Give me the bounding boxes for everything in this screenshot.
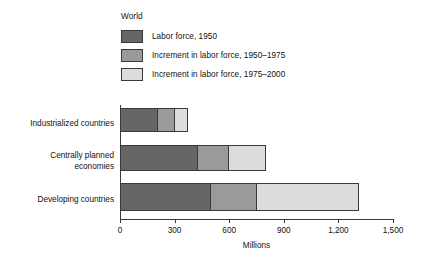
x-axis-tick [229,219,230,223]
x-axis-tick-label: 300 [168,226,182,236]
x-axis-tick [393,219,394,223]
bar-segment-centrally-planned-series3 [228,145,266,171]
legend-swatch-icon-series3 [121,68,143,81]
bar-segment-developing-series3 [256,183,360,211]
x-axis-tick [338,219,339,223]
x-axis-title: Millions [120,241,393,251]
bar-segment-centrally-planned-series1 [120,145,198,171]
legend-item-increment-1975-2000: Increment in labor force, 1975–2000 [121,65,411,84]
x-axis-tick-label: 900 [277,226,291,236]
bar-segment-industrialized-series3 [174,108,189,132]
legend-item-label: Increment in labor force, 1975–2000 [152,70,285,80]
x-axis-tick [175,219,176,223]
bar-segment-developing-series1 [120,183,211,211]
bar-centrally-planned [120,145,266,171]
legend-title: World [121,12,411,22]
legend-item-label: Labor force, 1950 [152,32,217,42]
bar-segment-industrialized-series1 [120,108,158,132]
y-axis-label-industrialized: Industrialized countries [2,118,114,129]
bar-segment-centrally-planned-series2 [197,145,229,171]
bar-developing [120,183,359,211]
bar-segment-developing-series2 [210,183,257,211]
x-axis-line [120,219,393,220]
bar-chart: World Labor force, 1950 Increment in lab… [0,0,429,268]
x-axis-tick-label: 0 [118,226,123,236]
y-axis-label-centrally-planned: Centrally planned economies [2,150,114,172]
legend-swatch-icon-series2 [121,49,143,62]
x-axis-tick-label: 600 [222,226,236,236]
x-axis-tick-label: 1,500 [383,226,404,236]
bar-segment-industrialized-series2 [157,108,174,132]
legend-item-labor-force-1950: Labor force, 1950 [121,27,411,46]
x-axis-tick [284,219,285,223]
legend-item-increment-1950-1975: Increment in labor force, 1950–1975 [121,46,411,65]
x-axis-tick [120,219,121,223]
plot-area: 03006009001,2001,500 Millions [120,105,393,219]
legend-swatch-icon-series1 [121,30,143,43]
legend-item-label: Increment in labor force, 1950–1975 [152,51,285,61]
bar-industrialized [120,108,188,132]
y-axis-label-developing: Developing countries [2,194,114,205]
y-axis-labels: Industrialized countries Centrally plann… [0,105,114,219]
chart-legend: World Labor force, 1950 Increment in lab… [121,12,411,84]
x-axis-tick-label: 1,200 [328,226,349,236]
